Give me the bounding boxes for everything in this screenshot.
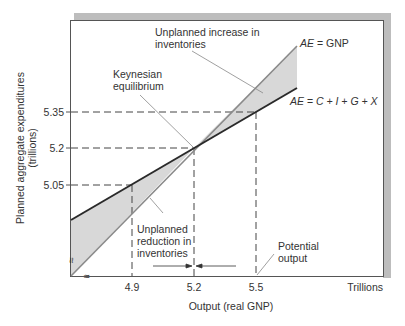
- y-axis-break-icon: ≈: [65, 257, 77, 263]
- keynesian-cross-chart: ≈ ≈ 5.35 5.2 5.05 4.9 5.2 5.5 Trillions …: [0, 0, 405, 326]
- svg-text:equilibrium: equilibrium: [113, 80, 164, 92]
- x-tick-4-9: 4.9: [125, 281, 140, 293]
- frame-shadow-right: [383, 13, 391, 278]
- y-tick-5-2: 5.2: [49, 142, 64, 154]
- svg-text:reduction in: reduction in: [137, 235, 191, 247]
- y-tick-5-05: 5.05: [44, 179, 65, 191]
- x-tick-5-2: 5.2: [187, 281, 202, 293]
- ae-cigx-label: AE = C + I + G + X: [289, 95, 379, 107]
- y-axis-title-line1: Planned aggregate expenditures: [14, 72, 26, 224]
- x-axis-title: Output (real GNP): [189, 300, 274, 312]
- ae-gnp-label: AE = GNP: [299, 37, 349, 49]
- y-axis-title-line2: (trillions): [26, 128, 38, 168]
- annotation-keynesian-equilibrium: Keynesian equilibrium: [113, 68, 164, 92]
- svg-text:Keynesian: Keynesian: [113, 68, 162, 80]
- svg-text:inventories: inventories: [137, 247, 188, 259]
- svg-text:Potential: Potential: [278, 240, 319, 252]
- svg-text:Unplanned increase in: Unplanned increase in: [155, 26, 260, 38]
- frame: [71, 13, 392, 278]
- svg-text:output: output: [278, 252, 307, 264]
- svg-text:Unplanned: Unplanned: [137, 223, 188, 235]
- y-axis-title: Planned aggregate expenditures (trillion…: [14, 72, 38, 224]
- x-axis-break-icon: ≈: [84, 270, 90, 282]
- svg-text:inventories: inventories: [155, 38, 206, 50]
- frame-shadow-top: [74, 13, 391, 20]
- x-tick-5-5: 5.5: [249, 281, 264, 293]
- annotation-unplanned-reduction: Unplanned reduction in inventories: [137, 223, 191, 259]
- x-unit-label: Trillions: [347, 281, 383, 293]
- y-tick-5-35: 5.35: [44, 106, 65, 118]
